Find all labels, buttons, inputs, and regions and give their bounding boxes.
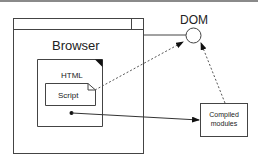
compiled-label-line2: modules — [211, 120, 238, 127]
modules-to-dom-arrow — [201, 43, 225, 103]
browser-label: Browser — [52, 38, 100, 53]
script-document: Script — [46, 84, 96, 106]
script-label: Script — [58, 91, 79, 100]
html-label: HTML — [61, 71, 83, 80]
compiled-label-line1: Compiled — [209, 111, 239, 119]
diagram-canvas: Browser DOM HTML Script Compiled modules — [0, 0, 258, 158]
dom-node: DOM — [180, 13, 208, 43]
compiled-modules-box: Compiled modules — [201, 104, 248, 137]
dom-label: DOM — [180, 13, 208, 27]
